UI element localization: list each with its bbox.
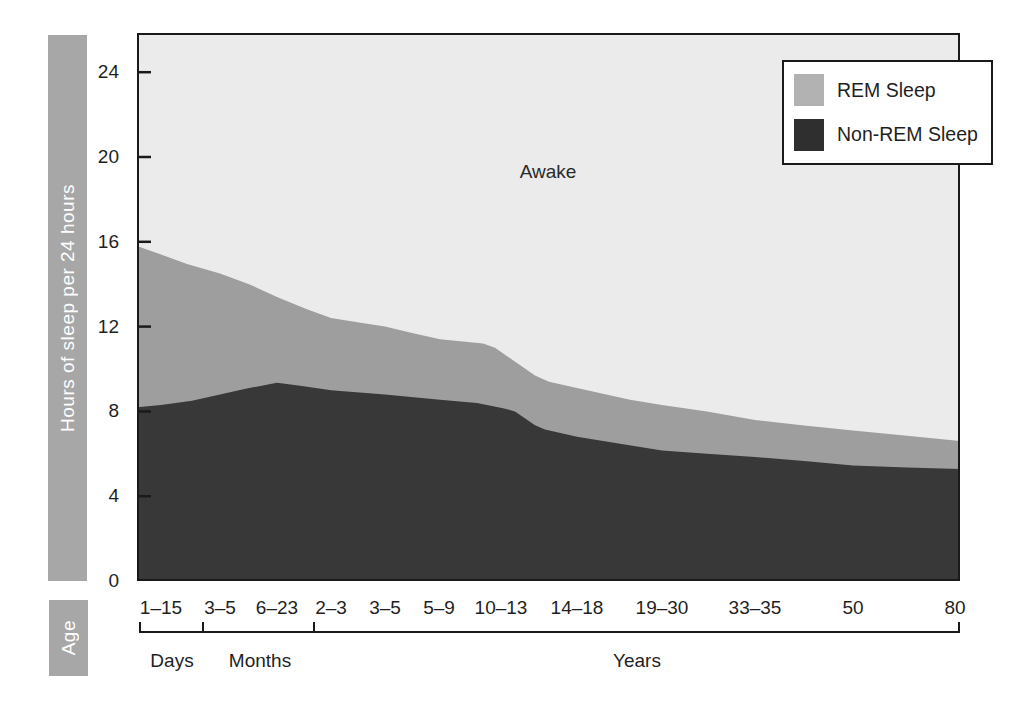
age-axis-title: Age	[58, 620, 80, 655]
age-label-2: 6–23	[256, 597, 298, 619]
legend-label-rem: REM Sleep	[837, 79, 936, 102]
sleep-ontogeny-figure: Hours of sleep per 24 hours Age Awake 04…	[0, 0, 1031, 704]
legend-item-rem: REM Sleep	[794, 74, 991, 106]
age-label-4: 3–5	[369, 597, 401, 619]
age-label-6: 10–13	[475, 597, 528, 619]
age-label-7: 14–18	[551, 597, 604, 619]
y-tick-label-12: 12	[98, 316, 119, 338]
age-axis-title-bar: Age	[49, 600, 88, 676]
legend-label-nonrem: Non-REM Sleep	[837, 123, 978, 146]
age-unit-labels: DaysMonthsYears	[137, 650, 960, 674]
age-label-11: 80	[944, 597, 965, 619]
age-label-3: 2–3	[315, 597, 347, 619]
y-tick-label-20: 20	[98, 146, 119, 168]
y-tick-label-16: 16	[98, 231, 119, 253]
awake-region-label: Awake	[520, 161, 577, 183]
age-unit-label-months: Months	[229, 650, 291, 672]
age-label-5: 5–9	[423, 597, 455, 619]
y-tick-label-8: 8	[108, 400, 119, 422]
legend: REM Sleep Non-REM Sleep	[782, 60, 993, 165]
age-label-10: 50	[842, 597, 863, 619]
age-label-0: 1–15	[140, 597, 182, 619]
age-label-9: 33–35	[729, 597, 782, 619]
rem-swatch	[794, 74, 824, 106]
age-label-1: 3–5	[204, 597, 236, 619]
age-unit-label-days: Days	[150, 650, 193, 672]
y-tick-label-4: 4	[108, 485, 119, 507]
y-axis-title: Hours of sleep per 24 hours	[57, 184, 79, 432]
y-axis-tick-labels: 04812162024	[85, 33, 128, 581]
age-unit-bracket	[137, 618, 960, 636]
nonrem-swatch	[794, 119, 824, 151]
y-axis-title-bar: Hours of sleep per 24 hours	[48, 35, 87, 581]
age-unit-label-years: Years	[613, 650, 661, 672]
y-tick-label-0: 0	[108, 570, 119, 592]
y-tick-label-24: 24	[98, 61, 119, 83]
age-label-8: 19–30	[636, 597, 689, 619]
legend-item-nonrem: Non-REM Sleep	[794, 119, 991, 151]
